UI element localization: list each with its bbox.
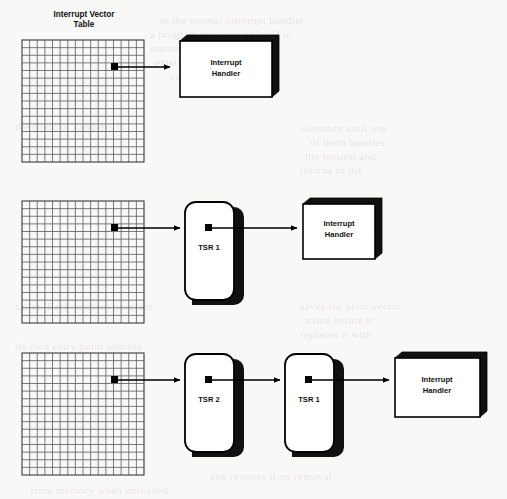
- vector-entry-marker-row-2[interactable]: [111, 224, 118, 231]
- interrupt-vector-table-row-2[interactable]: [22, 201, 144, 323]
- row-3-group: TSR 2 TSR 1 Interrupt Handler: [22, 352, 487, 475]
- tsr2-box-row-3[interactable]: TSR 2: [185, 354, 244, 457]
- interrupt-vector-table-row-1[interactable]: [22, 40, 144, 162]
- diagram-canvas: to the normal interrupt handlera program…: [0, 0, 507, 499]
- vector-entry-marker-row-3[interactable]: [111, 376, 118, 383]
- ivt-title-line2: Table: [74, 20, 95, 29]
- interrupt-handler-label-line2-row-2: Handler: [325, 230, 353, 239]
- tsr1-entry-marker-row-3[interactable]: [305, 376, 312, 383]
- tsr2-entry-marker-row-3[interactable]: [205, 376, 212, 383]
- tsr1-label-row-2: TSR 1: [198, 243, 220, 252]
- interrupt-handler-label-line2-row-3: Handler: [423, 386, 451, 395]
- vector-entry-marker-row-1[interactable]: [111, 63, 118, 70]
- tsr1-label-row-3: TSR 1: [298, 395, 320, 404]
- interrupt-handler-box-row-3[interactable]: Interrupt Handler: [395, 352, 487, 417]
- tsr1-box-row-3[interactable]: TSR 1: [285, 354, 344, 457]
- interrupt-vector-table-row-3[interactable]: [22, 353, 144, 475]
- interrupt-handler-box-row-2[interactable]: Interrupt Handler: [303, 198, 382, 259]
- interrupt-handler-label-line2-row-1: Handler: [212, 69, 240, 78]
- interrupt-chain-diagram: Interrupt Vector Table Interrupt Handler: [0, 0, 507, 499]
- tsr1-entry-marker-row-2[interactable]: [205, 224, 212, 231]
- ivt-title-line1: Interrupt Vector: [54, 10, 116, 19]
- interrupt-handler-label-line1-row-1: Interrupt: [210, 58, 242, 67]
- interrupt-handler-label-line1-row-2: Interrupt: [323, 219, 355, 228]
- tsr1-box-row-2[interactable]: TSR 1: [185, 202, 244, 305]
- row-1-group: Interrupt Vector Table Interrupt Handler: [22, 10, 279, 162]
- interrupt-handler-box-row-1[interactable]: Interrupt Handler: [180, 35, 279, 97]
- tsr2-label-row-3: TSR 2: [198, 395, 220, 404]
- row-2-group: TSR 1 Interrupt Handler: [22, 198, 382, 323]
- interrupt-handler-label-line1-row-3: Interrupt: [421, 375, 453, 384]
